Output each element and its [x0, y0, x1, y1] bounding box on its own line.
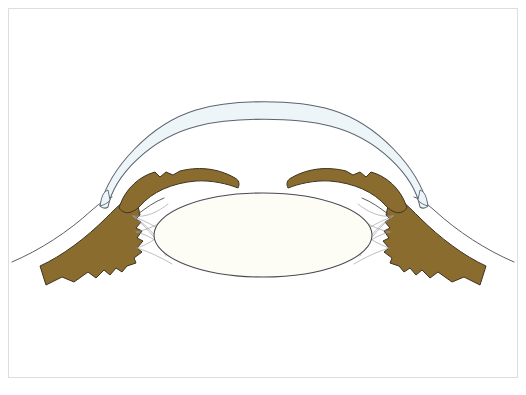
- crystalline-lens: [154, 193, 372, 277]
- eye-anatomy-figure: Anterior segment of the human eye — cros…: [0, 0, 526, 395]
- lens-group: [154, 193, 372, 277]
- eye-cross-section-svg: [0, 0, 526, 395]
